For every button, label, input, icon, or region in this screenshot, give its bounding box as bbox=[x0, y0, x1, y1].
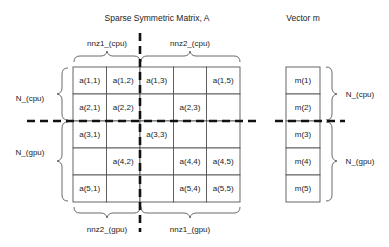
vector-cell: m(2) bbox=[295, 103, 312, 112]
matrix-cell: a(5,1) bbox=[79, 184, 100, 193]
label-n-cpu-left: N_(cpu) bbox=[16, 94, 45, 103]
matrix-cell: a(2,2) bbox=[113, 103, 134, 112]
brace-bottom-right bbox=[141, 207, 240, 218]
label-nnz1-gpu: nnz1_(gpu) bbox=[170, 225, 211, 234]
vector-column: m(1) m(2) m(3) m(4) m(5) bbox=[286, 67, 320, 202]
matrix-cell: a(2,3) bbox=[180, 103, 201, 112]
matrix-cell: a(1,3) bbox=[146, 76, 167, 85]
matrix-cell: a(1,5) bbox=[213, 76, 234, 85]
matrix-cell: a(4,4) bbox=[180, 157, 201, 166]
vector-cell: m(3) bbox=[295, 130, 312, 139]
matrix-cell: a(1,1) bbox=[79, 76, 100, 85]
matrix-row: a(3,1) a(3,3) bbox=[73, 121, 240, 148]
matrix-row: a(4,2) a(4,4) a(4,5) bbox=[73, 148, 240, 175]
label-n-gpu-left: N_(gpu) bbox=[16, 148, 45, 157]
brace-right-bottom bbox=[326, 122, 337, 201]
label-nnz2-cpu: nnz2_(cpu) bbox=[170, 39, 210, 48]
matrix-cell: a(5,5) bbox=[213, 184, 234, 193]
matrix-cell: a(3,1) bbox=[79, 130, 100, 139]
label-n-gpu-right: N_(gpu) bbox=[346, 157, 375, 166]
matrix-cell: a(4,5) bbox=[213, 157, 234, 166]
vector-cell: m(5) bbox=[295, 184, 312, 193]
matrix-cell: a(4,2) bbox=[113, 157, 134, 166]
label-n-cpu-right: N_(cpu) bbox=[346, 90, 375, 99]
diagram-canvas: Sparse Symmetric Matrix, A Vector m a(1,… bbox=[0, 0, 389, 247]
matrix-row: a(1,1) a(1,2) a(1,3) a(1,5) bbox=[73, 67, 240, 94]
matrix-cell: a(2,1) bbox=[79, 103, 100, 112]
label-nnz1-cpu: nnz1_(cpu) bbox=[87, 39, 127, 48]
vector-cell: m(4) bbox=[295, 157, 312, 166]
brace-left-top bbox=[57, 68, 68, 120]
brace-right-top bbox=[326, 67, 337, 120]
label-nnz2-gpu: nnz2_(gpu) bbox=[87, 225, 128, 234]
matrix-row: a(2,1) a(2,2) a(2,3) bbox=[73, 94, 240, 121]
matrix-title: Sparse Symmetric Matrix, A bbox=[105, 13, 210, 23]
vector-cell: m(1) bbox=[295, 76, 312, 85]
matrix-row: a(5,1) a(5,4) a(5,5) bbox=[73, 175, 240, 202]
vector-title: Vector m bbox=[286, 13, 320, 23]
matrix-cell: a(5,4) bbox=[180, 184, 201, 193]
matrix-grid: a(1,1) a(1,2) a(1,3) a(1,5) a(2,1) a(2,2… bbox=[73, 67, 240, 202]
brace-left-bottom bbox=[57, 122, 68, 201]
brace-bottom-left bbox=[74, 207, 140, 218]
matrix-cell: a(1,2) bbox=[113, 76, 134, 85]
brace-top-left bbox=[74, 51, 140, 62]
brace-top-right bbox=[141, 51, 240, 62]
matrix-cell: a(3,3) bbox=[146, 130, 167, 139]
